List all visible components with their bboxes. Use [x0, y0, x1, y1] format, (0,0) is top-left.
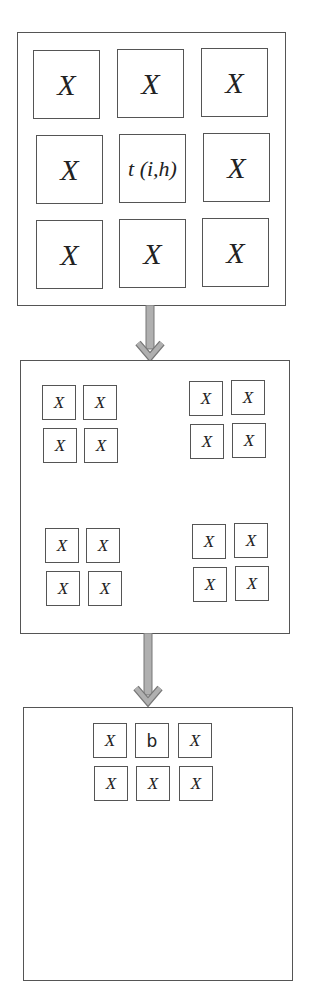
group-cell: X [83, 385, 117, 420]
group-cell: X [235, 566, 269, 601]
grid-cell: X [36, 135, 103, 204]
group-cell: X [231, 380, 265, 415]
down-arrow-icon [133, 633, 163, 709]
group-cell: X [193, 567, 227, 602]
grid-cell: X [117, 49, 184, 118]
group-cell: X [192, 524, 226, 559]
group-cell: X [45, 528, 79, 563]
result-cell: X [179, 766, 213, 801]
grid-cell: X [119, 219, 186, 288]
grid-cell: X [202, 218, 269, 287]
result-cell: X [94, 766, 128, 801]
panel-original-grid: X X X X t (i,h) X X X X [17, 32, 286, 306]
result-cell: X [136, 766, 170, 801]
group-cell: X [234, 523, 268, 558]
grid-cell: X [33, 50, 100, 119]
result-cell: X [178, 723, 212, 758]
grid-cell: X [201, 48, 268, 117]
grid-cell: X [203, 133, 270, 202]
group-cell: X [43, 428, 77, 463]
group-cell: X [84, 428, 118, 463]
group-cell: X [86, 528, 120, 563]
panel-result-grid: X b X X X X [23, 707, 293, 981]
group-cell: X [42, 385, 76, 420]
panel-split-groups: X X X X X X X X X X X X X X X X [20, 360, 290, 634]
result-cell: X [93, 723, 127, 758]
down-arrow-icon [135, 305, 165, 363]
result-cell-b: b [135, 723, 169, 758]
grid-cell-center: t (i,h) [119, 134, 186, 203]
group-cell: X [190, 424, 224, 459]
grid-cell: X [36, 220, 103, 289]
group-cell: X [46, 571, 80, 606]
group-cell: X [232, 423, 266, 458]
group-cell: X [189, 381, 223, 416]
group-cell: X [88, 571, 122, 606]
